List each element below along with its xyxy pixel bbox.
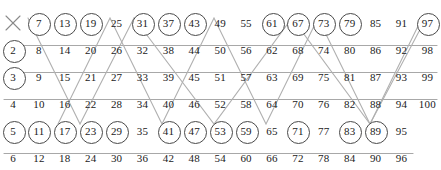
number-cell-19-circled: 19 [79,12,103,34]
number-cell-60: 60 [234,147,258,169]
number-cell-25: 25 [105,12,129,34]
number-cell-77: 77 [312,120,336,142]
number-label-75: 75 [318,72,329,83]
number-cell-20: 20 [79,39,103,61]
number-label-87: 87 [370,72,381,83]
number-label-99: 99 [422,72,433,83]
number-label-80: 80 [344,45,355,56]
number-label-34: 34 [137,99,148,110]
number-label-45: 45 [189,72,200,83]
number-label-74: 74 [318,45,329,56]
number-cell-21: 21 [79,66,103,88]
number-cell-52: 52 [208,93,232,115]
number-label-30: 30 [111,153,122,164]
number-cell-48: 48 [182,147,206,169]
number-cell-83-circled: 83 [338,120,362,142]
number-cell-12: 12 [27,147,51,169]
number-label-90: 90 [370,153,381,164]
number-label-62: 62 [266,45,277,56]
number-label-37: 37 [163,18,174,29]
number-cell-93: 93 [390,66,414,88]
number-label-38: 38 [163,45,174,56]
number-label-3: 3 [10,72,16,83]
number-cell-53-circled: 53 [208,120,232,142]
number-cell-85: 85 [364,12,388,34]
number-label-53: 53 [214,126,225,137]
number-label-13: 13 [59,18,70,29]
number-label-27: 27 [111,72,122,83]
number-cell-97-circled: 97 [415,12,439,34]
number-cell-29-circled: 29 [105,120,129,142]
number-cell-76: 76 [312,93,336,115]
number-cell-46: 46 [182,93,206,115]
number-label-26: 26 [111,45,122,56]
number-label-94: 94 [396,99,407,110]
number-cell-86: 86 [364,39,388,61]
number-label-2: 2 [10,45,16,56]
number-cell-59-circled: 59 [234,120,258,142]
number-cell-43-circled: 43 [182,12,206,34]
number-cell-39: 39 [156,66,180,88]
number-cell-18: 18 [53,147,77,169]
number-label-59: 59 [240,126,251,137]
number-cell-69: 69 [286,66,310,88]
number-cell-87: 87 [364,66,388,88]
number-cell-79-circled: 79 [338,12,362,34]
number-label-76: 76 [318,99,329,110]
number-label-83: 83 [344,126,355,137]
number-cell-44: 44 [182,39,206,61]
number-cell-49: 49 [208,12,232,34]
number-cell-81: 81 [338,66,362,88]
number-cell-1-crossed [1,12,25,34]
number-label-82: 82 [344,99,355,110]
number-label-78: 78 [318,153,329,164]
number-label-33: 33 [137,72,148,83]
number-cell-73-circled: 73 [312,12,336,34]
number-label-68: 68 [292,45,303,56]
number-cell-45: 45 [182,66,206,88]
number-label-51: 51 [214,72,225,83]
number-cell-6: 6 [1,147,25,169]
number-label-6: 6 [10,153,16,164]
number-label-65: 65 [266,126,277,137]
number-label-91: 91 [396,18,407,29]
number-label-84: 84 [344,153,355,164]
number-cell-66: 66 [260,147,284,169]
number-label-25: 25 [111,18,122,29]
number-label-22: 22 [85,99,96,110]
number-cell-80: 80 [338,39,362,61]
number-label-58: 58 [240,99,251,110]
number-cell-14: 14 [53,39,77,61]
number-cell-26: 26 [105,39,129,61]
number-cell-37-circled: 37 [156,12,180,34]
number-cell-40: 40 [156,93,180,115]
number-cell-13-circled: 13 [53,12,77,34]
number-label-7: 7 [36,18,42,29]
number-label-97: 97 [422,18,433,29]
number-cell-50: 50 [208,39,232,61]
number-label-44: 44 [189,45,200,56]
number-cell-88: 88 [364,93,388,115]
number-cell-91: 91 [390,12,414,34]
number-cell-64: 64 [260,93,284,115]
number-label-12: 12 [33,153,44,164]
number-cell-56: 56 [234,39,258,61]
number-label-29: 29 [111,126,122,137]
number-cell-10: 10 [27,93,51,115]
number-label-14: 14 [59,45,70,56]
number-cell-98: 98 [415,39,439,61]
number-label-16: 16 [59,99,70,110]
number-label-48: 48 [189,153,200,164]
number-cell-3-circled: 3 [1,66,25,88]
number-label-49: 49 [214,18,225,29]
number-label-32: 32 [137,45,148,56]
number-cell-62: 62 [260,39,284,61]
number-cell-84: 84 [338,147,362,169]
number-label-50: 50 [214,45,225,56]
number-label-85: 85 [370,18,381,29]
number-cell-11-circled: 11 [27,120,51,142]
number-label-21: 21 [85,72,96,83]
number-label-57: 57 [240,72,251,83]
number-cell-16: 16 [53,93,77,115]
number-cell-28: 28 [105,93,129,115]
